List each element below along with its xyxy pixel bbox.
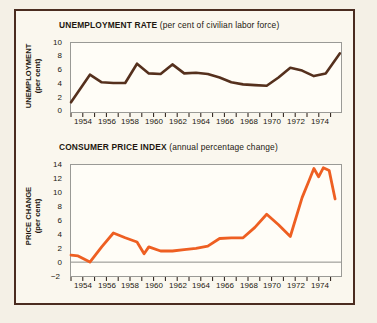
chart-unemployment: UNEMPLOYMENT RATE (per cent of civilian … <box>16 11 353 151</box>
y-tick-unemployment-10: 10 <box>40 38 62 47</box>
chart-title-unemployment-sub: (per cent of civilian labor force) <box>160 20 280 30</box>
chart-title-unemployment-main: UNEMPLOYMENT RATE <box>59 20 157 30</box>
y-tick-unemployment-8: 8 <box>40 51 62 60</box>
x-tick-unemployment-1974: 1974 <box>305 117 335 126</box>
cpi-line-svg <box>71 165 341 276</box>
y-tick-cpi-14: 14 <box>40 160 62 169</box>
figure-frame: UNEMPLOYMENT RATE (per cent of civilian … <box>14 9 355 305</box>
y-tick-cpi-8: 8 <box>40 202 62 211</box>
y-tick-unemployment-4: 4 <box>40 79 62 88</box>
y-tick-cpi-2: 2 <box>40 244 62 253</box>
y-tick-cpi-0: 0 <box>40 258 62 267</box>
x-tick-cpi-1974: 1974 <box>305 281 335 290</box>
plot-area-unemployment <box>70 42 342 113</box>
plot-area-cpi <box>70 164 342 277</box>
chart-title-cpi-main: CONSUMER PRICE INDEX <box>59 142 167 152</box>
chart-title-cpi-sub: (annual percentage change) <box>169 142 278 152</box>
chart-title-unemployment: UNEMPLOYMENT RATE (per cent of civilian … <box>59 20 279 30</box>
y-tick-cpi-minus2: −2 <box>38 272 60 281</box>
y-tick-unemployment-6: 6 <box>40 65 62 74</box>
y-axis-label-cpi-line1: PRICE CHANGE <box>24 176 33 256</box>
y-tick-unemployment-0: 0 <box>40 106 62 115</box>
chart-title-cpi: CONSUMER PRICE INDEX (annual percentage … <box>59 142 278 152</box>
chart-cpi: CONSUMER PRICE INDEX (annual percentage … <box>16 141 353 306</box>
y-axis-label-unemployment-line1: UNEMPLOYMENT <box>24 34 33 118</box>
y-tick-cpi-12: 12 <box>40 174 62 183</box>
unemployment-series-path <box>71 53 340 102</box>
y-tick-cpi-4: 4 <box>40 230 62 239</box>
unemployment-line-svg <box>71 43 341 112</box>
y-tick-cpi-6: 6 <box>40 216 62 225</box>
y-tick-cpi-10: 10 <box>40 188 62 197</box>
y-tick-unemployment-2: 2 <box>40 93 62 102</box>
cpi-series-path <box>71 168 335 262</box>
figure-page: UNEMPLOYMENT RATE (per cent of civilian … <box>0 0 377 323</box>
